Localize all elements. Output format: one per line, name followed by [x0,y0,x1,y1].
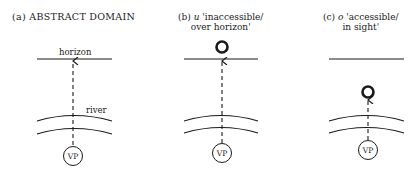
diagram-canvas: horizon river VP VP VP [0,0,420,177]
river-bank-upper [184,116,258,122]
panel-b: VP [184,42,258,163]
river-bank-lower [37,129,112,135]
object-circle-in-sight [363,87,374,98]
river-bank-upper [329,116,404,122]
panel-a: horizon river VP [37,47,112,166]
viewpoint-label: VP [67,152,78,161]
river-bank-lower [329,128,404,134]
viewpoint-label: VP [216,149,227,158]
panel-c: VP [329,59,404,160]
object-circle-over-horizon [217,42,228,53]
horizon-label: horizon [59,47,92,57]
viewpoint-label: VP [362,146,373,155]
river-label: river [86,105,108,115]
river-bank-lower [184,128,258,134]
river-bank-upper [37,116,112,122]
